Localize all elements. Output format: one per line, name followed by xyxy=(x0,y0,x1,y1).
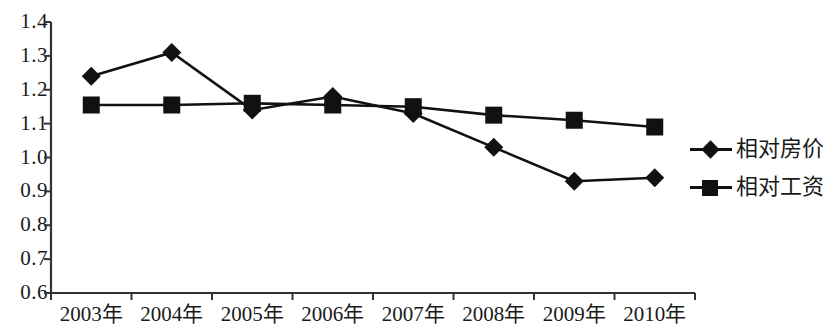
x-tick-label: 2010年 xyxy=(623,303,686,325)
x-tick-label: 2005年 xyxy=(221,303,284,325)
x-tick-label: 2003年 xyxy=(60,303,123,325)
legend-label-1: 相对工资 xyxy=(732,175,824,199)
legend-item-1[interactable]: 相对工资 xyxy=(690,168,816,206)
x-tick-label: 2007年 xyxy=(382,303,445,325)
x-tick-label: 2006年 xyxy=(301,303,364,325)
chart-legend: 相对房价 相对工资 xyxy=(690,130,816,206)
x-tick-label: 2008年 xyxy=(462,303,525,325)
legend-label-0: 相对房价 xyxy=(732,137,824,161)
x-tick-label: 2004年 xyxy=(140,303,203,325)
diamond-marker-icon xyxy=(690,137,732,161)
x-tick-label: 2009年 xyxy=(543,303,606,325)
legend-item-0[interactable]: 相对房价 xyxy=(690,130,816,168)
square-marker-icon xyxy=(690,175,732,199)
